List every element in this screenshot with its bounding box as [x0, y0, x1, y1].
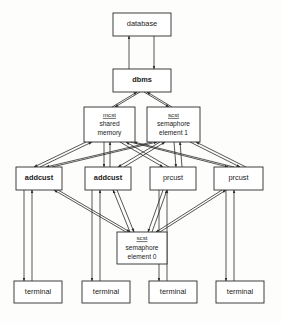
node-addcust-2[interactable]: addcust: [85, 167, 131, 190]
node-label-addcust-2-line-0: addcust: [94, 173, 123, 182]
node-label-terminal-3-line-0: terminal: [160, 287, 187, 296]
node-label-mcst-shared-memory-line-2: memory: [98, 129, 123, 137]
node-terminal-2[interactable]: terminal: [82, 281, 130, 303]
edge-scst-semaphore-element-1-to-addcust-2: [118, 142, 160, 167]
node-label-database-line-0: database: [127, 19, 157, 28]
node-label-scst-semaphore-element-0-line-2: element 0: [128, 253, 157, 260]
edge-mcst-shared-memory-to-addcust-1: [34, 142, 86, 167]
edge-scst-semaphore-element-0-to-prcust-2: [160, 190, 226, 232]
node-label-scst-semaphore-element-0-line-0: scst: [136, 234, 147, 241]
node-dbms[interactable]: dbms: [113, 69, 171, 92]
edge-dbms-to-mcst-shared-memory: [115, 92, 140, 107]
node-mcst-shared-memory[interactable]: mcstsharedmemory: [84, 107, 135, 142]
edge-scst-semaphore-element-1-to-addcust-1: [46, 142, 152, 167]
node-label-terminal-2-line-0: terminal: [93, 287, 120, 296]
node-terminal-3[interactable]: terminal: [149, 281, 197, 303]
edge-prcust-2-to-mcst-shared-memory: [134, 142, 234, 167]
node-label-addcust-1-line-0: addcust: [25, 173, 54, 182]
node-label-scst-semaphore-element-1-line-0: scst: [168, 111, 179, 118]
node-label-scst-semaphore-element-1-line-2: element 1: [159, 129, 188, 136]
node-label-prcust-2-line-0: prcust: [228, 173, 248, 182]
edge-addcust-1-to-mcst-shared-memory: [40, 142, 92, 167]
node-label-mcst-shared-memory-line-0: mcst: [103, 111, 116, 118]
node-label-terminal-1-line-0: terminal: [25, 287, 52, 296]
node-prcust-1[interactable]: prcust: [150, 167, 196, 190]
node-terminal-4[interactable]: terminal: [216, 281, 264, 303]
edge-dbms-to-scst-semaphore-element-1: [144, 92, 169, 107]
edge-scst-semaphore-element-1-to-dbms: [147, 92, 172, 107]
edge-prcust-2-to-scst-semaphore-element-1: [196, 142, 246, 167]
edge-scst-semaphore-element-1-to-prcust-1: [174, 142, 176, 167]
node-label-terminal-4-line-0: terminal: [227, 287, 254, 296]
node-prcust-2[interactable]: prcust: [214, 167, 263, 190]
node-label-scst-semaphore-element-0-line-1: semaphore: [126, 244, 159, 252]
node-addcust-1[interactable]: addcust: [16, 167, 62, 190]
edge-prcust-1-to-scst-semaphore-element-0: [148, 190, 163, 232]
edge-scst-semaphore-element-1-to-prcust-2: [190, 142, 240, 167]
architecture-diagram: databasedbmsmcstsharedmemoryscstsemaphor…: [0, 0, 282, 323]
node-database[interactable]: database: [113, 13, 171, 36]
diagram-canvas: databasedbmsmcstsharedmemoryscstsemaphor…: [0, 0, 282, 323]
node-terminal-1[interactable]: terminal: [14, 281, 62, 303]
node-label-dbms-line-0: dbms: [132, 75, 152, 84]
node-label-prcust-1-line-0: prcust: [163, 173, 183, 182]
node-scst-semaphore-element-0[interactable]: scstsemaphoreelement 0: [117, 232, 167, 264]
node-label-mcst-shared-memory-line-1: shared: [99, 120, 119, 127]
edge-prcust-2-to-scst-semaphore-element-0: [156, 190, 222, 232]
node-label-scst-semaphore-element-1-line-1: semaphore: [157, 120, 190, 128]
edge-scst-semaphore-element-0-to-prcust-1: [152, 190, 167, 232]
edge-mcst-shared-memory-to-dbms: [112, 92, 137, 107]
node-scst-semaphore-element-1[interactable]: scstsemaphoreelement 1: [147, 107, 200, 142]
